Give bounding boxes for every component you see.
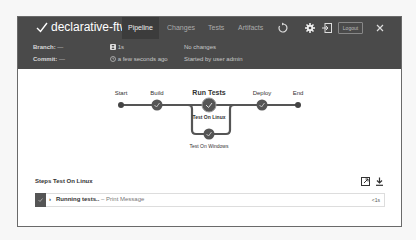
step-success-icon <box>35 193 46 207</box>
commit-field: Commit: — <box>33 56 65 62</box>
duration-field: 1s <box>110 44 124 50</box>
build-node[interactable] <box>152 100 163 111</box>
started-by-field: Started by user admin <box>184 56 243 62</box>
replay-icon[interactable] <box>277 22 289 34</box>
exit-icon[interactable] <box>321 22 333 34</box>
end-node <box>295 102 301 108</box>
run-header: declarative-ftw 3 Pipeline Changes Tests… <box>18 17 401 69</box>
hourglass-icon <box>110 44 116 50</box>
open-external-icon[interactable] <box>361 177 370 186</box>
tab-changes[interactable]: Changes <box>161 17 201 39</box>
tab-tests[interactable]: Tests <box>202 17 230 39</box>
run-details-modal: declarative-ftw 3 Pipeline Changes Tests… <box>17 16 402 227</box>
stage-label-start: Start <box>115 90 128 96</box>
stage-label-end: End <box>293 90 304 96</box>
changes-field: No changes <box>184 44 216 50</box>
steps-title: Steps Test On Linux <box>35 178 93 184</box>
logout-button[interactable]: Logout <box>338 22 363 34</box>
branch-field: Branch: — <box>33 44 63 50</box>
download-icon[interactable] <box>375 177 384 186</box>
branch-label-test-on-linux[interactable]: Test On Linux <box>193 114 226 120</box>
time-field: a few seconds ago <box>110 56 168 62</box>
gear-icon[interactable] <box>304 22 316 34</box>
check-icon <box>35 20 49 34</box>
clock-icon <box>110 56 116 62</box>
step-label: Running tests.. – Print Message <box>56 196 144 202</box>
test-on-linux-node[interactable] <box>202 98 216 112</box>
start-node <box>118 102 124 108</box>
step-row[interactable]: › Running tests.. – Print Message <1s <box>35 193 385 207</box>
stage-label-deploy: Deploy <box>253 90 272 96</box>
deploy-node[interactable] <box>257 100 268 111</box>
close-icon[interactable] <box>374 22 386 34</box>
step-duration: <1s <box>372 197 380 203</box>
stage-label-run-tests: Run Tests <box>192 89 225 96</box>
tab-artifacts[interactable]: Artifacts <box>232 17 269 39</box>
tab-pipeline[interactable]: Pipeline <box>122 17 159 39</box>
branch-label-test-on-windows[interactable]: Test On Windows <box>190 143 229 149</box>
stage-label-build: Build <box>150 90 163 96</box>
chevron-right-icon[interactable]: › <box>49 196 51 202</box>
test-on-windows-node[interactable] <box>204 129 215 140</box>
